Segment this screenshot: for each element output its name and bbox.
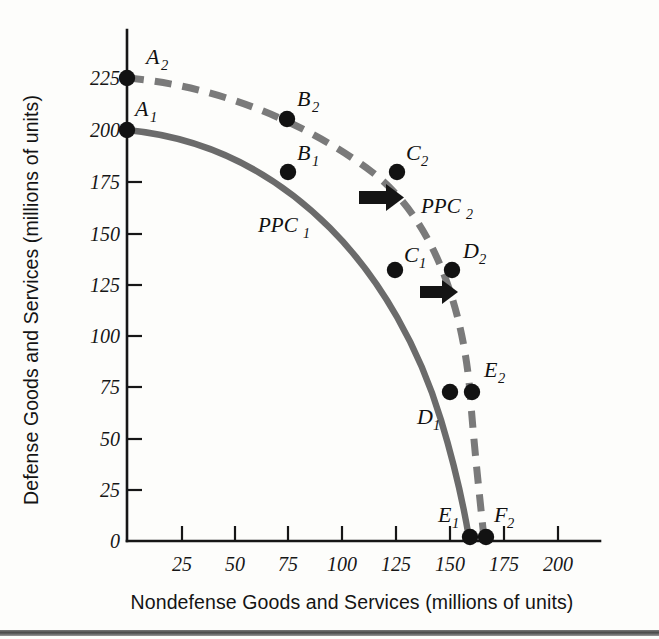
curve-label-ppc1-base: PPC (257, 213, 299, 237)
label-e2: E 2 (483, 357, 505, 386)
point-labels: A 2 A 1 B 2 B 1 C 2 C 1 (133, 44, 514, 531)
label-f2-sub: 2 (507, 515, 514, 531)
point-a1[interactable] (119, 122, 135, 138)
label-e1-sub: 1 (452, 515, 459, 531)
label-b2-base: B (297, 86, 310, 111)
y-axis-title: Defense Goods and Services (millions of … (20, 95, 42, 505)
y-tick-labels: 225 200 175 150 125 100 75 50 25 0 (90, 67, 120, 552)
point-b2[interactable] (279, 111, 295, 127)
label-b2-sub: 2 (312, 99, 319, 115)
shift-arrow-lower-shaft (420, 286, 444, 298)
label-d1-sub: 1 (433, 417, 440, 433)
point-e2[interactable] (464, 384, 480, 400)
x-tick-marks (182, 526, 558, 541)
ppc-figure: 225 200 175 150 125 100 75 50 25 0 25 50 (0, 0, 659, 639)
label-e1-base: E (437, 502, 452, 527)
bottom-divider-rule (0, 630, 659, 636)
point-c2[interactable] (389, 164, 405, 180)
y-tick-marks (127, 78, 142, 490)
label-a2-base: A (144, 44, 160, 69)
y-tick-label-125: 125 (90, 274, 120, 296)
shift-arrow-upper (359, 184, 404, 211)
label-c1: C 1 (404, 242, 426, 271)
axes-group (127, 30, 600, 541)
ppc1-curve (127, 130, 469, 538)
point-f2[interactable] (478, 529, 494, 545)
y-tick-label-75: 75 (100, 376, 120, 398)
label-a1-base: A (133, 96, 149, 121)
point-a2[interactable] (119, 70, 135, 86)
label-b2: B 2 (297, 86, 319, 115)
y-tick-label-100: 100 (90, 325, 120, 347)
x-tick-label-75: 75 (278, 553, 298, 575)
curve-label-ppc1: PPC 1 (257, 213, 310, 241)
label-f2-base: F (493, 502, 508, 527)
label-c2-sub: 2 (421, 153, 428, 169)
y-tick-label-150: 150 (90, 223, 120, 245)
x-tick-labels: 25 50 75 100 125 150 175 200 (172, 553, 573, 575)
curve-label-ppc2-base: PPC (420, 194, 462, 218)
label-c1-base: C (404, 242, 419, 267)
shift-arrow-lower (420, 280, 458, 304)
y-tick-label-50: 50 (100, 428, 120, 450)
y-tick-label-0: 0 (110, 530, 120, 552)
ppc-chart: 225 200 175 150 125 100 75 50 25 0 25 50 (0, 0, 659, 639)
label-d2-base: D (462, 238, 479, 263)
label-e1: E 1 (437, 502, 459, 531)
label-b1-sub: 1 (312, 153, 319, 169)
point-b1[interactable] (280, 164, 296, 180)
x-tick-label-50: 50 (225, 553, 245, 575)
label-a2: A 2 (144, 44, 168, 73)
label-a1: A 1 (133, 96, 157, 125)
point-d1[interactable] (442, 384, 458, 400)
curve-label-ppc2-sub: 2 (466, 207, 473, 222)
y-tick-label-175: 175 (90, 171, 120, 193)
label-c2: C 2 (406, 140, 428, 169)
ppc1-points (119, 122, 478, 545)
label-d1-base: D (416, 404, 433, 429)
x-tick-label-125: 125 (381, 553, 411, 575)
point-e1[interactable] (462, 529, 478, 545)
label-e2-sub: 2 (498, 370, 505, 386)
label-d2-sub: 2 (479, 251, 486, 267)
label-d2: D 2 (462, 238, 486, 267)
curve-label-ppc2: PPC 2 (420, 194, 473, 222)
label-a1-sub: 1 (150, 109, 157, 125)
x-tick-label-175: 175 (489, 553, 519, 575)
x-tick-label-200: 200 (543, 553, 573, 575)
label-c1-sub: 1 (419, 255, 426, 271)
label-e2-base: E (483, 357, 498, 382)
x-tick-label-25: 25 (172, 553, 192, 575)
point-c1[interactable] (387, 262, 403, 278)
x-tick-label-150: 150 (435, 553, 465, 575)
point-d2[interactable] (444, 262, 460, 278)
label-f2: F 2 (493, 502, 514, 531)
y-tick-label-225: 225 (90, 67, 120, 89)
x-tick-label-100: 100 (327, 553, 357, 575)
label-c2-base: C (406, 140, 421, 165)
curve-label-ppc1-sub: 1 (303, 226, 310, 241)
label-a2-sub: 2 (161, 57, 168, 73)
label-b1-base: B (297, 140, 310, 165)
x-axis-title: Nondefense Goods and Services (millions … (131, 591, 574, 613)
label-b1: B 1 (297, 140, 319, 169)
y-tick-label-200: 200 (90, 119, 120, 141)
shift-arrow-upper-shaft (359, 191, 388, 204)
y-tick-label-25: 25 (100, 479, 120, 501)
